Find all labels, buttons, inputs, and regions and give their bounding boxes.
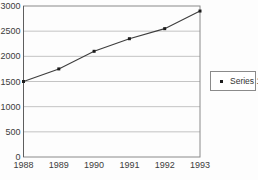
x-tick-label: 1991	[119, 160, 139, 170]
y-tick-label: 2500	[0, 26, 20, 36]
data-point	[57, 67, 60, 70]
y-tick-label: 2000	[0, 51, 20, 61]
data-point	[22, 80, 25, 83]
data-point	[128, 37, 131, 40]
y-tick-label: 500	[5, 127, 20, 137]
y-tick-label: 1500	[0, 77, 20, 87]
data-point	[163, 27, 166, 30]
x-tick-label: 1989	[49, 160, 69, 170]
x-tick-label: 1988	[13, 160, 33, 170]
legend: Series 1	[210, 71, 256, 91]
data-point	[93, 50, 96, 53]
data-point	[199, 10, 202, 13]
legend-series-label: Series 1	[230, 76, 258, 86]
y-tick-label: 1000	[0, 102, 20, 112]
x-tick-label: 1992	[155, 160, 175, 170]
series-line	[24, 11, 201, 81]
x-tick-label: 1993	[190, 160, 210, 170]
y-tick-label: 3000	[0, 1, 20, 11]
x-tick-label: 1990	[84, 160, 104, 170]
line-chart: 0500100015002000250030001988198919901991…	[0, 0, 258, 180]
series-marker-icon	[220, 80, 223, 83]
